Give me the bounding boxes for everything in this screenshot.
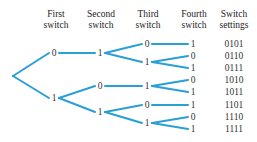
switch-setting-value: 1011: [225, 87, 244, 97]
tree-node-label: 1: [98, 107, 103, 117]
switch-settings-column: 01010110011110101011110111101111: [225, 39, 244, 134]
tree-node-label: 0: [191, 112, 196, 122]
switch-setting-value: 0101: [225, 39, 244, 49]
switch-setting-value: 0110: [225, 51, 244, 61]
switch-setting-value: 1110: [225, 112, 244, 122]
tree-edge: [13, 76, 49, 98]
column-header-line2: settings: [219, 20, 248, 30]
column-header-line1: Second: [87, 9, 115, 19]
tree-node-label: 0: [52, 48, 57, 58]
tree-edge: [13, 53, 49, 76]
tree-node-label: 1: [191, 100, 196, 110]
tree-edge: [152, 86, 188, 92]
switch-setting-value: 1111: [225, 124, 243, 134]
tree-edge: [59, 98, 95, 112]
column-header-line2: switch: [89, 20, 114, 30]
tree-edge: [152, 62, 188, 68]
tree-edge: [152, 117, 188, 123]
tree-edge: [105, 112, 142, 123]
column-header-line2: switch: [136, 20, 161, 30]
tree-node-label: 0: [145, 100, 150, 110]
tree-edge: [105, 53, 142, 62]
column-header-line1: Fourth: [181, 9, 207, 19]
column-header-line2: switch: [44, 20, 69, 30]
column-header-line2: switch: [182, 20, 207, 30]
column-header-line1: Third: [137, 9, 158, 19]
tree-node-label: 1: [145, 57, 150, 67]
tree-edge: [59, 86, 95, 98]
tree-node-label: 1: [191, 87, 196, 97]
tree-node-label: 0: [98, 81, 103, 91]
tree-node-label: 0: [191, 75, 196, 85]
tree-node-label: 0: [191, 51, 196, 61]
tree-node-label: 1: [98, 48, 103, 58]
tree-node-label: 1: [191, 63, 196, 73]
tree-edge: [152, 80, 188, 86]
switch-settings-tree-diagram: FirstswitchSecondswitchThirdswitchFourth…: [0, 0, 257, 142]
tree-node-label: 1: [145, 118, 150, 128]
tree-node-label: 0: [145, 39, 150, 49]
switch-setting-value: 1101: [225, 100, 244, 110]
switch-setting-value: 1010: [225, 75, 244, 85]
tree-edge: [152, 123, 188, 129]
tree-edge: [105, 44, 142, 53]
column-headers: FirstswitchSecondswitchThirdswitchFourth…: [44, 9, 249, 30]
tree-node-label: 1: [191, 124, 196, 134]
column-header-line1: First: [47, 9, 65, 19]
tree-edge: [152, 56, 188, 62]
tree-node-label: 1: [145, 81, 150, 91]
tree-edge: [105, 105, 142, 112]
switch-setting-value: 0111: [225, 63, 244, 73]
column-header-line1: Switch: [221, 9, 248, 19]
tree-node-label: 1: [191, 39, 196, 49]
tree-node-label: 1: [52, 93, 57, 103]
